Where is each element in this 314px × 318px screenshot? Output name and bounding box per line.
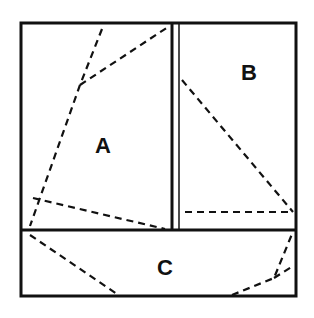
- region-label-a: A: [95, 133, 111, 158]
- fold-line-a1: [30, 29, 102, 226]
- region-label-c: C: [157, 255, 173, 280]
- region-label-b: B: [241, 60, 257, 85]
- fold-line-b1: [182, 80, 293, 212]
- fold-line-c2: [232, 234, 292, 295]
- fold-line-a3: [33, 198, 165, 229]
- partition-diagram: A B C: [0, 0, 314, 318]
- fold-line-c1: [30, 235, 117, 294]
- fold-line-a2: [80, 27, 168, 85]
